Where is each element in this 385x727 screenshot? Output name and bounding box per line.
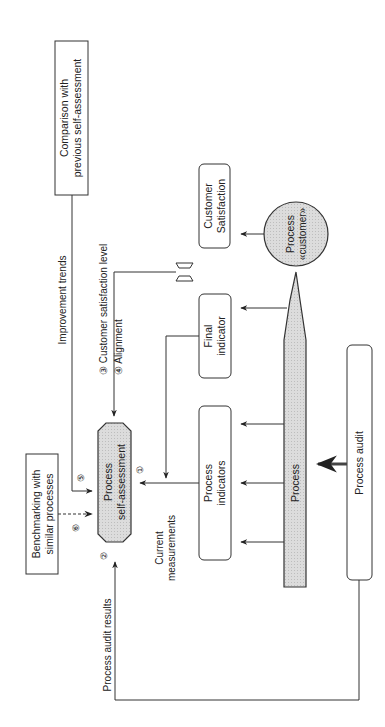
process-label: Process [289, 464, 301, 502]
current-measurements-edge: ① Current measurements [135, 466, 199, 581]
final-indicator-label-2: indicator [215, 316, 227, 356]
benchmarking-label-2: similar processes [43, 473, 55, 554]
improvement-trends-label: Improvement trends [57, 256, 68, 345]
process-customer-label-2: «customer» [297, 207, 308, 260]
benchmarking-label-1: Benchmarking with [30, 469, 42, 558]
process-indicators-label-2: indicators [215, 461, 227, 506]
connector-symbol [176, 263, 193, 281]
process-audit-label: Process audit [353, 431, 365, 495]
benchmarking-box: Benchmarking with similar processes [26, 454, 58, 574]
process-audit-results-label: Process audit results [102, 599, 113, 692]
customer-satisfaction-label-1: Customer [202, 183, 214, 229]
comparison-label-2: previous self-assessment [71, 59, 83, 178]
process-indicators-label-1: Process [202, 464, 214, 502]
marker-6: ⑥ [71, 524, 81, 532]
process-customer-circle: Process «customer» [264, 202, 328, 266]
final-indicator-label-1: Final [202, 325, 214, 348]
self-assessment-label-1: Process [102, 463, 114, 501]
marker-5: ⑤ [76, 474, 86, 482]
current-measurements-label-2: measurements [166, 515, 177, 581]
process-customer-label-1: Process [284, 215, 296, 253]
process-bar: Process [284, 272, 306, 587]
customer-satisfaction-box: Customer Satisfaction [199, 164, 230, 248]
customer-satisfaction-level-edge: ③ Customer satisfaction level ④ Alignmen… [98, 244, 176, 416]
comparison-box: Comparison with previous self-assessment [55, 41, 88, 195]
current-measurements-label-1: Current [154, 531, 165, 565]
process-audit-box: Process audit [347, 345, 372, 580]
marker-2: ② [99, 552, 109, 560]
alignment-label: ④ Alignment [113, 319, 124, 375]
self-assessment-diagram: Comparison with previous self-assessment… [0, 0, 385, 727]
final-indicator-to-measurements-line [166, 336, 199, 478]
improvement-trends-edge: Improvement trends ⑤ [57, 195, 92, 491]
final-indicator-box: Final indicator [199, 294, 231, 378]
customer-satisfaction-label-2: Satisfaction [215, 179, 227, 233]
self-assessment-box: Process self-assessment [98, 423, 131, 542]
customer-satisfaction-level-label: ③ Customer satisfaction level [98, 244, 109, 375]
process-indicators-box: Process indicators [199, 406, 231, 560]
process-audit-results-edge: Process audit results ② [99, 552, 359, 700]
self-assessment-label-2: self-assessment [115, 444, 127, 520]
marker-1: ① [135, 466, 145, 474]
comparison-label-1: Comparison with [58, 79, 70, 157]
